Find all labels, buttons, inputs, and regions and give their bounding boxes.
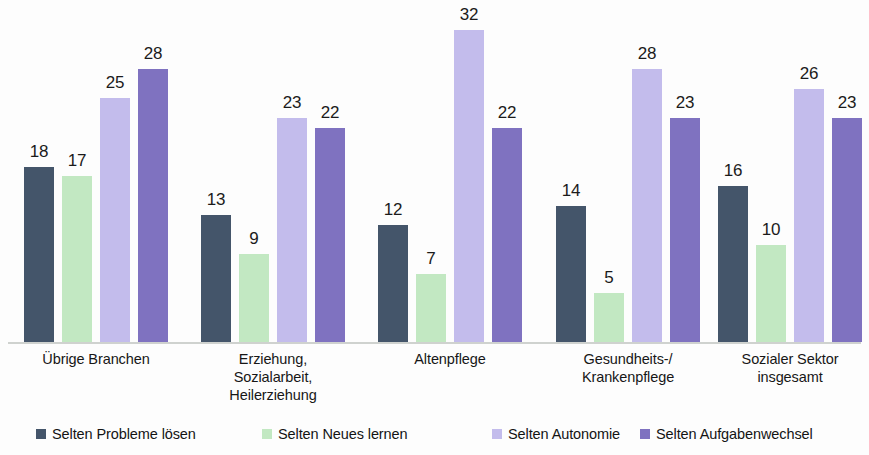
bar-value-label: 16 (724, 162, 743, 179)
bar (239, 254, 269, 342)
bar (138, 69, 168, 342)
bar-value-label: 25 (106, 74, 125, 91)
bar (632, 69, 662, 342)
bar (24, 167, 54, 343)
legend-swatch-icon (492, 429, 502, 439)
bar-item: 28 (632, 45, 662, 342)
bar (670, 118, 700, 342)
bar-value-label: 12 (384, 201, 403, 218)
bar-item: 18 (24, 143, 54, 343)
category-label-line: Sozialer Sektor (700, 350, 869, 368)
bar (315, 128, 345, 343)
bar-group: 1452823 (538, 12, 718, 342)
bar-group: 16102623 (700, 12, 869, 342)
chart-legend: Selten Probleme lösenSelten Neues lernen… (0, 424, 869, 448)
bar-item: 26 (794, 65, 824, 343)
category-label-line: Erziehung, (183, 350, 363, 368)
bar-value-label: 7 (426, 250, 435, 267)
bar-value-label: 28 (144, 45, 163, 62)
category-label-line: Sozialarbeit, (183, 368, 363, 386)
legend-item[interactable]: Selten Neues lernen (262, 424, 408, 444)
bar-value-label: 13 (207, 191, 226, 208)
bar (556, 206, 586, 343)
category-label-line: Gesundheits-/ (538, 350, 718, 368)
bar (756, 245, 786, 343)
category-label-line: Heilerziehung (183, 386, 363, 404)
bar-value-label: 5 (604, 269, 613, 286)
category-label-line: insgesamt (700, 368, 869, 386)
bar-item: 13 (201, 191, 231, 342)
category-label: Sozialer Sektorinsgesamt (700, 350, 869, 386)
legend-label: Selten Probleme lösen (52, 426, 196, 442)
bar (718, 186, 748, 342)
category-label-line: Übrige Branchen (6, 350, 186, 368)
legend-swatch-icon (36, 429, 46, 439)
bar (201, 215, 231, 342)
legend-item[interactable]: Selten Probleme lösen (36, 424, 196, 444)
bar-item: 28 (138, 45, 168, 342)
bar (794, 89, 824, 343)
bar-chart: 1817252813923221273222145282316102623 Üb… (0, 0, 869, 455)
bar-item: 23 (277, 94, 307, 342)
legend-label: Selten Neues lernen (278, 426, 408, 442)
bar (594, 293, 624, 342)
bar-item: 22 (315, 104, 345, 343)
bar-value-label: 23 (676, 94, 695, 111)
bar-value-label: 17 (68, 152, 87, 169)
bar-item: 22 (492, 104, 522, 343)
bar-value-label: 23 (283, 94, 302, 111)
bar (378, 225, 408, 342)
bar-value-label: 23 (838, 94, 857, 111)
bar-group: 1392322 (183, 12, 363, 342)
bar-item: 9 (239, 230, 269, 342)
bar-value-label: 22 (498, 104, 517, 121)
bar (277, 118, 307, 342)
bar-item: 5 (594, 269, 624, 342)
bar-group: 18172528 (6, 12, 186, 342)
bar-item: 14 (556, 182, 586, 343)
legend-swatch-icon (640, 429, 650, 439)
bar-item: 12 (378, 201, 408, 342)
category-label-line: Altenpflege (360, 350, 540, 368)
bar (454, 30, 484, 342)
category-label: Erziehung,Sozialarbeit,Heilerziehung (183, 350, 363, 404)
category-label-line: Krankenpflege (538, 368, 718, 386)
legend-label: Selten Aufgabenwechsel (656, 426, 813, 442)
legend-label: Selten Autonomie (508, 426, 620, 442)
bar-item: 16 (718, 162, 748, 342)
x-axis-baseline (8, 342, 861, 344)
bar-value-label: 28 (638, 45, 657, 62)
bar-value-label: 14 (562, 182, 581, 199)
bar (492, 128, 522, 343)
bar-value-label: 10 (762, 221, 781, 238)
bar (832, 118, 862, 342)
bar-item: 23 (670, 94, 700, 342)
bar-value-label: 18 (30, 143, 49, 160)
bar-value-label: 9 (249, 230, 258, 247)
category-label: Gesundheits-/Krankenpflege (538, 350, 718, 386)
bar-item: 17 (62, 152, 92, 342)
category-label: Altenpflege (360, 350, 540, 368)
category-axis: Übrige BranchenErziehung,Sozialarbeit,He… (0, 350, 869, 412)
bar-item: 23 (832, 94, 862, 342)
bar-value-label: 32 (460, 6, 479, 23)
bar (62, 176, 92, 342)
bar (416, 274, 446, 342)
category-label: Übrige Branchen (6, 350, 186, 368)
bar-item: 7 (416, 250, 446, 342)
bar-group: 1273222 (360, 12, 540, 342)
plot-area: 1817252813923221273222145282316102623 (0, 0, 869, 344)
bar-value-label: 22 (321, 104, 340, 121)
legend-item[interactable]: Selten Aufgabenwechsel (640, 424, 813, 444)
bar-value-label: 26 (800, 65, 819, 82)
legend-item[interactable]: Selten Autonomie (492, 424, 620, 444)
bar-item: 32 (454, 6, 484, 342)
bar-item: 25 (100, 74, 130, 342)
bar (100, 98, 130, 342)
legend-swatch-icon (262, 429, 272, 439)
bar-item: 10 (756, 221, 786, 343)
